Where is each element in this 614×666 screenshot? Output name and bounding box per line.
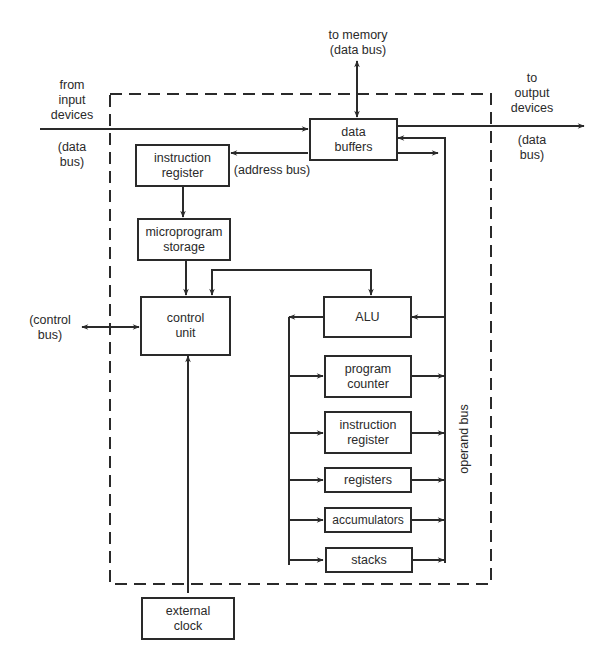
microprogram-storage-box: microprogram storage [137,218,231,261]
control-unit-box: control unit [140,296,231,356]
to-output-label: to output devices [500,71,564,116]
operand-bus-to-buffers [398,138,445,563]
address-bus-label: (address bus) [230,163,314,178]
instruction-register-box: instruction register [135,144,230,187]
operand-bus-label: operand bus [457,399,471,479]
to-memory-label: to memory (data bus) [312,28,404,58]
instruction-register-bus-box: instruction register [324,411,412,454]
control-bus-label: (control bus) [18,313,82,343]
registers-box: registers [324,467,412,493]
output-data-bus-label: (data bus) [500,133,564,163]
data-buffers-box: data buffers [309,118,398,161]
stacks-box: stacks [325,547,413,573]
from-input-label: from input devices [40,78,104,123]
accumulators-box: accumulators [324,507,412,533]
external-clock-box: external clock [141,597,235,640]
control-alu-link [212,270,371,295]
alu-box: ALU [323,296,412,338]
input-data-bus-label: (data bus) [40,140,104,170]
program-counter-box: program counter [324,355,412,398]
